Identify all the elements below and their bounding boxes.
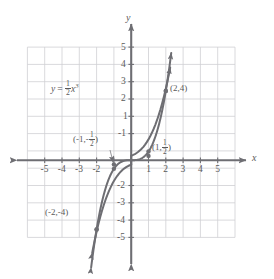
figure-container: -5 -4 -3 -2 1 2 3 4 5 5 4 3 2 1 -1 -2 -3… (0, 0, 274, 279)
point-label-neg1-neg-half: (-1,-12) (73, 131, 98, 147)
point-label-2-4: (2,4) (170, 84, 187, 93)
coord-x: -2 (48, 207, 56, 217)
coord-y-fraction: 12 (89, 131, 94, 147)
y-tick-label-neg5: -5 (117, 233, 125, 243)
equation-lhs: y (51, 84, 55, 94)
x-axis-label: x (252, 153, 256, 163)
data-point-marker (112, 167, 116, 171)
equation-label: y=12x3 (51, 80, 79, 97)
equation-equals: = (57, 84, 62, 94)
equation-coefficient-denominator: 2 (65, 89, 71, 97)
data-point-marker (164, 89, 168, 93)
coord-y-denominator: 2 (162, 148, 167, 156)
coord-x: -1 (76, 134, 84, 144)
y-tick-label-neg1: -1 (118, 129, 126, 139)
x-tick-label-4: 4 (198, 165, 203, 175)
graph-canvas (0, 0, 274, 279)
x-tick-label-neg3: -3 (75, 165, 83, 175)
data-point-marker (94, 227, 98, 231)
y-tick-label-3: 3 (121, 77, 126, 87)
x-tick-label-neg4: -4 (58, 165, 66, 175)
y-tick-label-neg4: -4 (117, 216, 125, 226)
y-tick-label-neg3: -3 (117, 198, 125, 208)
x-tick-label-3: 3 (181, 165, 186, 175)
x-tick-label-5: 5 (215, 165, 220, 175)
coord-y-fraction: 12 (162, 139, 167, 155)
paren-close: ) (95, 134, 98, 144)
y-tick-label-1: 1 (123, 112, 128, 122)
point-label-1-half: (1,12) (152, 139, 171, 155)
coord-y-denominator: 2 (89, 140, 94, 148)
data-point-marker (146, 149, 150, 153)
y-axis-label: y (126, 13, 130, 23)
x-tick-label-1: 1 (146, 165, 151, 175)
paren-close: ) (65, 207, 68, 217)
y-tick-label-neg2: -2 (117, 181, 125, 191)
y-tick-label-4: 4 (121, 60, 126, 70)
paren-close: ) (168, 142, 171, 152)
y-tick-label-2: 2 (121, 94, 126, 104)
x-tick-label-neg5: -5 (41, 165, 49, 175)
equation-coefficient-fraction: 12 (65, 80, 71, 97)
x-tick-label-neg2: -2 (92, 165, 100, 175)
x-tick-label-2: 2 (163, 165, 168, 175)
point-label-neg2-neg4: (-2,-4) (45, 208, 68, 217)
equation-exponent: 3 (75, 82, 78, 89)
paren-close: ) (184, 83, 187, 93)
y-tick-label-5: 5 (121, 43, 126, 53)
